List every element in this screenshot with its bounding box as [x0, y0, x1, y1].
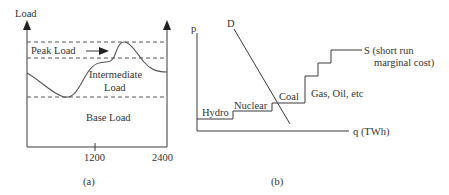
diagram-canvas: Load Peak Load Intermediate Load Base Lo…: [0, 0, 449, 195]
step-label-coal: Coal: [279, 91, 299, 102]
base-load-label: Base Load: [86, 112, 131, 123]
right-axis-arrow-icon: [163, 20, 171, 30]
supply-label-line1: S (short run: [364, 45, 414, 57]
step-label-hydro: Hydro: [202, 107, 229, 118]
caption-b: (b): [271, 176, 284, 188]
step-label-gas-oil: Gas, Oil, etc: [311, 88, 364, 99]
tick-label-1200: 1200: [84, 152, 105, 163]
quantity-axis-label: q (TWh): [353, 126, 390, 138]
step-label-nuclear: Nuclear: [234, 100, 268, 111]
price-axis-label: p: [191, 23, 196, 34]
demand-label: D: [227, 18, 235, 29]
peak-pointer-arrow-icon: [99, 47, 109, 55]
caption-a: (a): [83, 176, 95, 188]
intermediate-load-label-2: Load: [104, 82, 126, 93]
intermediate-load-label-1: Intermediate: [89, 69, 142, 80]
peak-load-label: Peak Load: [31, 45, 76, 56]
load-duration-panel: Load Peak Load Intermediate Load Base Lo…: [15, 8, 173, 188]
tick-label-2400: 2400: [152, 152, 173, 163]
merit-order-panel: p D q (TWh) Hydro Nuclear Coal Gas, Oil,…: [191, 18, 435, 188]
load-axis-label: Load: [15, 8, 37, 19]
left-axis-arrow-icon: [23, 20, 31, 30]
supply-label-line2: marginal cost): [374, 57, 435, 69]
